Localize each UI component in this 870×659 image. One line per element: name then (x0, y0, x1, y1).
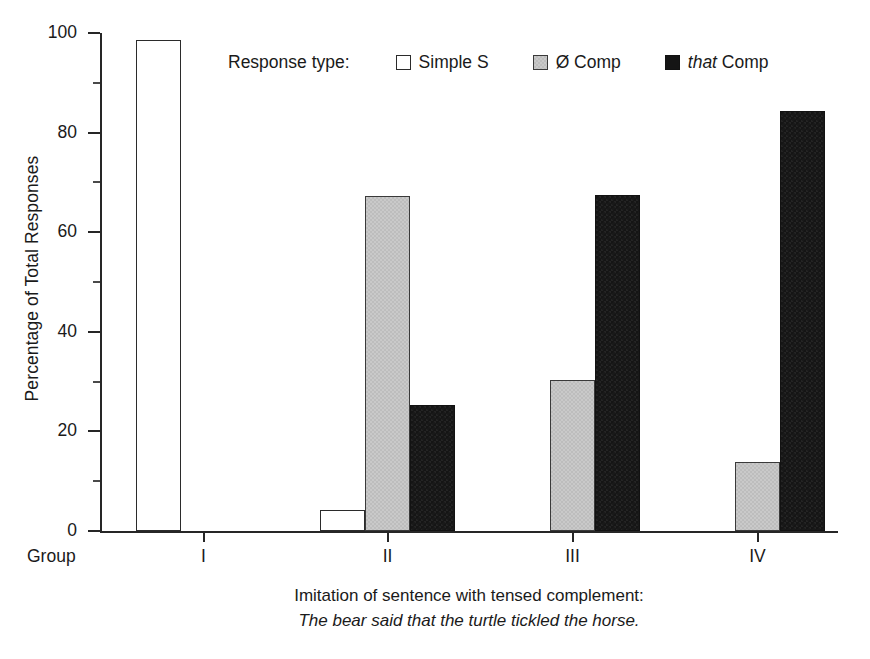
bar-group-II-that-comp (410, 405, 455, 531)
bar-group-IV-that-comp (780, 111, 825, 531)
y-tick-label-60: 60 (17, 223, 77, 241)
bar-group-II-simple (320, 510, 365, 531)
y-minor-tick-50 (93, 281, 100, 283)
x-tick-III (572, 531, 574, 542)
legend-entry-that-comp: that Comp (665, 52, 769, 73)
x-tick-IV (757, 531, 759, 542)
y-minor-tick-10 (93, 480, 100, 482)
y-tick-label-100: 100 (17, 24, 77, 42)
x-tick-label-II: II (358, 548, 418, 566)
y-minor-tick-70 (93, 181, 100, 183)
y-minor-tick-90 (93, 82, 100, 84)
y-axis-line (100, 33, 102, 532)
x-tick-II (387, 531, 389, 542)
y-tick-60 (88, 231, 100, 233)
y-tick-label-0: 0 (17, 522, 77, 540)
x-axis-caption: Imitation of sentence with tensed comple… (100, 584, 838, 633)
legend-label-simple: Simple S (419, 52, 489, 73)
legend-title: Response type: (228, 52, 350, 73)
bar-chart-figure: Percentage of Total Responses 1008060402… (0, 0, 870, 659)
y-tick-label-20: 20 (17, 422, 77, 440)
y-tick-label-80: 80 (17, 124, 77, 142)
y-tick-label-40: 40 (17, 323, 77, 341)
x-tick-label-I: I (174, 548, 234, 566)
bar-group-I-simple (136, 40, 181, 531)
legend: Response type: Simple SØ Compthat Comp (228, 52, 769, 73)
legend-swatch-simple-icon (396, 55, 411, 70)
legend-swatch-that-comp-icon (665, 55, 680, 70)
y-tick-100 (88, 32, 100, 34)
legend-label-zero-comp: Ø Comp (556, 52, 621, 73)
y-minor-tick-30 (93, 381, 100, 383)
caption-line-2: The bear said that the turtle tickled th… (100, 609, 838, 634)
x-axis-line (100, 531, 838, 533)
legend-entry-zero-comp: Ø Comp (533, 52, 621, 73)
group-axis-label: Group (27, 548, 76, 566)
bar-group-II-zero-comp (365, 196, 410, 531)
bar-group-III-that-comp (595, 195, 640, 531)
x-tick-I (203, 531, 205, 542)
bar-group-III-zero-comp (550, 380, 595, 531)
bar-group-IV-zero-comp (735, 462, 780, 531)
y-tick-80 (88, 132, 100, 134)
x-tick-label-III: III (543, 548, 603, 566)
legend-entry-simple: Simple S (396, 52, 489, 73)
y-tick-0 (88, 530, 100, 532)
y-tick-20 (88, 430, 100, 432)
legend-entries: Simple SØ Compthat Comp (396, 52, 769, 73)
legend-label-that-comp: that Comp (688, 52, 769, 73)
caption-line-1: Imitation of sentence with tensed comple… (100, 584, 838, 609)
legend-swatch-zero-comp-icon (533, 55, 548, 70)
x-tick-label-IV: IV (728, 548, 788, 566)
y-tick-40 (88, 331, 100, 333)
